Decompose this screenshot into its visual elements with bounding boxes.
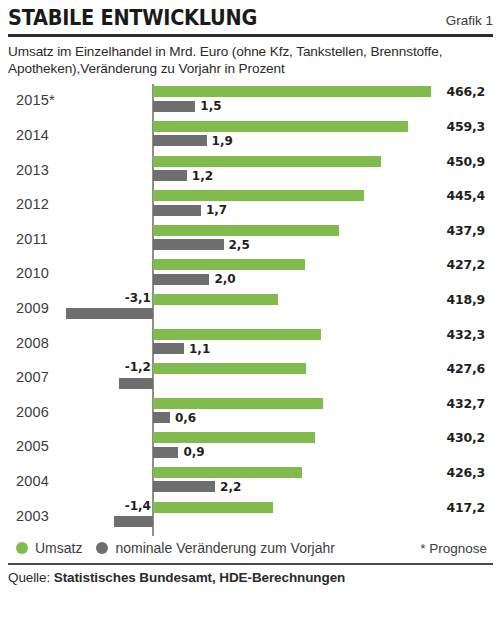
chart-subtitle: Umsatz im Einzelhandel in Mrd. Euro (ohn… xyxy=(8,43,493,79)
bar-chart: 2015*1,5466,220141,9459,320131,2450,9201… xyxy=(8,84,493,536)
bar-umsatz-value: 445,4 xyxy=(446,188,485,203)
legend-item-change: nominale Veränderung zum Vorjahr xyxy=(96,540,334,556)
chart-row: 20102,0427,2 xyxy=(8,257,493,292)
row-year-label: 2003 xyxy=(16,508,49,524)
source-line: Quelle: Statistisches Bundesamt, HDE-Ber… xyxy=(8,570,493,585)
bar-change-value: -1,2 xyxy=(119,360,153,374)
bar-umsatz xyxy=(153,502,273,513)
bar-change xyxy=(66,308,153,319)
source-prefix: Quelle: xyxy=(8,570,50,585)
row-year-label: 2006 xyxy=(16,404,49,420)
bar-change-value: 2,0 xyxy=(214,272,235,286)
source-body: Statistisches Bundesamt, HDE-Berechnunge… xyxy=(54,570,345,585)
chart-row: 2009-3,1418,9 xyxy=(8,292,493,327)
bar-change xyxy=(153,239,224,250)
row-year-label: 2010 xyxy=(16,265,49,281)
legend-label-umsatz: Umsatz xyxy=(35,540,82,556)
figure-label: Grafik 1 xyxy=(446,14,493,30)
bar-change xyxy=(153,101,195,112)
bar-umsatz xyxy=(153,121,408,132)
footer-divider xyxy=(8,563,493,565)
chart-row: 2003-1,4417,2 xyxy=(8,500,493,535)
bar-change xyxy=(153,205,201,216)
page-title: STABILE ENTWICKLUNG xyxy=(8,8,257,29)
bar-umsatz xyxy=(153,190,364,201)
legend-swatch-umsatz-icon xyxy=(16,542,28,554)
bar-umsatz-value: 432,7 xyxy=(446,396,485,411)
bar-change xyxy=(153,135,207,146)
bar-change-value: 1,1 xyxy=(189,342,210,356)
row-year-label: 2009 xyxy=(16,300,49,316)
row-year-label: 2013 xyxy=(16,162,49,178)
chart-row: 20112,5437,9 xyxy=(8,223,493,258)
bar-umsatz xyxy=(153,225,339,236)
chart-row: 2007-1,2427,6 xyxy=(8,361,493,396)
bar-umsatz-value: 427,2 xyxy=(446,257,485,272)
legend-label-change: nominale Veränderung zum Vorjahr xyxy=(115,540,334,556)
chart-row: 20060,6432,7 xyxy=(8,396,493,431)
chart-row: 2015*1,5466,2 xyxy=(8,84,493,119)
infographic-sheet: STABILE ENTWICKLUNG Grafik 1 Umsatz im E… xyxy=(0,0,501,633)
bar-umsatz-value: 432,3 xyxy=(446,327,485,342)
bar-change xyxy=(153,447,178,458)
bar-change xyxy=(153,170,187,181)
bar-umsatz-value: 430,2 xyxy=(446,430,485,445)
row-year-label: 2014 xyxy=(16,127,49,143)
bar-umsatz xyxy=(153,86,431,97)
bar-umsatz-value: 450,9 xyxy=(446,154,485,169)
bar-umsatz-value: 417,2 xyxy=(446,500,485,515)
row-year-label: 2005 xyxy=(16,438,49,454)
bar-umsatz-value: 427,6 xyxy=(446,361,485,376)
bar-umsatz-value: 426,3 xyxy=(446,465,485,480)
header: STABILE ENTWICKLUNG Grafik 1 xyxy=(8,0,493,29)
bar-umsatz xyxy=(153,329,321,340)
row-year-label: 2015* xyxy=(16,92,55,108)
bar-umsatz xyxy=(153,363,306,374)
bar-umsatz xyxy=(153,398,323,409)
chart-row: 20141,9459,3 xyxy=(8,119,493,154)
chart-row: 20121,7445,4 xyxy=(8,188,493,223)
bar-umsatz xyxy=(153,467,302,478)
bar-change-value: -1,4 xyxy=(114,499,153,513)
bar-change-value: 0,6 xyxy=(175,411,196,425)
row-year-label: 2004 xyxy=(16,473,49,489)
bar-change-value: 1,2 xyxy=(192,169,213,183)
header-divider xyxy=(8,34,493,37)
bar-change xyxy=(119,378,153,389)
row-year-label: 2011 xyxy=(16,231,48,247)
legend-footnote: * Prognose xyxy=(420,541,493,556)
chart-row: 20081,1432,3 xyxy=(8,327,493,362)
row-year-label: 2008 xyxy=(16,335,49,351)
bar-change-value: 1,7 xyxy=(206,203,227,217)
bar-umsatz xyxy=(153,259,305,270)
bar-change-value: 2,5 xyxy=(229,238,250,252)
bar-umsatz-value: 459,3 xyxy=(446,119,485,134)
bar-change-value: -3,1 xyxy=(66,291,153,305)
chart-row: 20042,2426,3 xyxy=(8,465,493,500)
bar-change xyxy=(153,274,209,285)
bar-umsatz-value: 466,2 xyxy=(446,84,485,99)
bar-umsatz xyxy=(153,156,381,167)
bar-umsatz xyxy=(153,432,315,443)
bar-change-value: 1,5 xyxy=(200,99,221,113)
chart-legend: Umsatz nominale Veränderung zum Vorjahr … xyxy=(8,540,493,556)
bar-umsatz xyxy=(153,294,278,305)
chart-row: 20050,9430,2 xyxy=(8,430,493,465)
bar-change xyxy=(153,412,170,423)
legend-swatch-change-icon xyxy=(96,542,108,554)
bar-change xyxy=(114,516,153,527)
bar-change-value: 0,9 xyxy=(183,445,204,459)
bar-change xyxy=(153,481,215,492)
bar-umsatz-value: 418,9 xyxy=(446,292,485,307)
legend-item-umsatz: Umsatz xyxy=(16,540,82,556)
row-year-label: 2012 xyxy=(16,196,49,212)
bar-change-value: 2,2 xyxy=(220,480,241,494)
row-year-label: 2007 xyxy=(16,369,49,385)
bar-change xyxy=(153,343,184,354)
bar-umsatz-value: 437,9 xyxy=(446,223,485,238)
chart-row: 20131,2450,9 xyxy=(8,154,493,189)
bar-change-value: 1,9 xyxy=(212,134,233,148)
